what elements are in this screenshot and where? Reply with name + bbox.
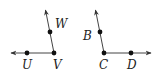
label-d: D [126, 58, 137, 72]
point-d [129, 51, 134, 56]
point-v [52, 51, 57, 56]
label-c: C [99, 58, 108, 72]
label-b: B [82, 29, 92, 43]
figure-angle-uvw: U V W [11, 10, 69, 72]
label-v: V [53, 58, 63, 72]
figure-angle-bcd: B C D [82, 10, 151, 72]
point-w [48, 30, 53, 35]
point-u [25, 51, 30, 56]
point-b [98, 30, 103, 35]
angle-diagram: U V W B C D [0, 0, 162, 75]
label-u: U [22, 58, 33, 72]
point-c [102, 51, 107, 56]
label-w: W [55, 17, 69, 31]
